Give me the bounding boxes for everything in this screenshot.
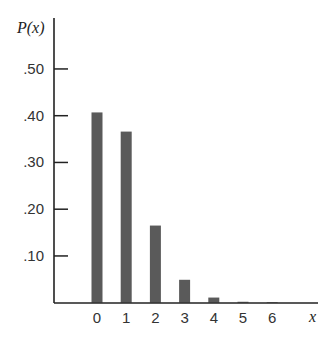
x-tick-label: 2 [151, 309, 159, 326]
probability-bar-chart: .10.20.30.40.50 0123456 P(x) x [0, 0, 327, 341]
x-tick-label: 0 [93, 309, 101, 326]
y-tick-label: .30 [23, 153, 44, 170]
y-tick-label: .50 [23, 60, 44, 77]
x-tick-label: 5 [239, 309, 247, 326]
bar-2 [150, 226, 161, 303]
y-axis-title: P(x) [16, 19, 45, 37]
x-tick-label: 1 [122, 309, 130, 326]
bar-4 [208, 298, 219, 303]
bars [92, 112, 278, 302]
x-tick-label: 3 [180, 309, 188, 326]
x-axis-title: x [308, 308, 316, 325]
x-axis-tick-labels: 0123456 [93, 309, 277, 326]
x-tick-label: 6 [268, 309, 276, 326]
x-tick-label: 4 [210, 309, 218, 326]
y-tick-label: .10 [23, 247, 44, 264]
y-axis-ticks: .10.20.30.40.50 [23, 60, 68, 264]
bar-1 [121, 132, 132, 303]
bar-0 [92, 112, 103, 302]
bar-3 [179, 280, 190, 303]
y-tick-label: .20 [23, 200, 44, 217]
y-tick-label: .40 [23, 107, 44, 124]
